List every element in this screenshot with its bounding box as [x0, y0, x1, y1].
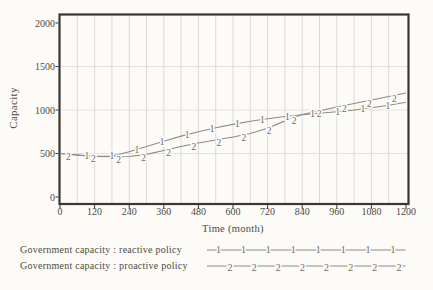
y-tick-label: 1500 [35, 61, 55, 72]
curve-marker-digit: 2 [392, 94, 397, 104]
legend-marker-digit: 2 [300, 262, 305, 273]
legend-marker-digit: 2 [276, 262, 281, 273]
curve-marker-digit: 1 [210, 124, 215, 134]
curve-marker-digit: 1 [185, 130, 190, 140]
y-tick-label: 0 [50, 192, 55, 203]
curve-marker-digit: 2 [292, 116, 297, 126]
x-tick-label: 480 [191, 206, 206, 217]
curve-marker-digit: 2 [242, 133, 247, 143]
legend-marker-digit: 2 [324, 262, 329, 273]
curve-marker-digit: 2 [66, 152, 71, 162]
x-tick-label: 1200 [396, 206, 416, 217]
x-tick-label: 960 [329, 206, 344, 217]
legend-marker-digit: 1 [266, 244, 271, 255]
curve-marker-digit: 2 [216, 138, 221, 148]
legend-marker-digit: 2 [348, 262, 353, 273]
legend-marker-digit: 2 [252, 262, 257, 273]
curve-marker-digit: 2 [141, 153, 146, 163]
y-tick-label: 2000 [35, 18, 55, 29]
curve-marker-digit: 1 [110, 151, 115, 161]
y-axis-title: Capacity [7, 87, 19, 129]
curve-marker-digit: 1 [285, 112, 290, 122]
legend-marker-digit: 2 [397, 262, 402, 273]
curve-marker-digit: 2 [191, 142, 196, 152]
legend-marker-digit: 1 [366, 244, 371, 255]
curve-marker-digit: 2 [317, 109, 322, 119]
curve-marker-digit: 1 [160, 137, 165, 147]
x-tick-label: 600 [226, 206, 241, 217]
x-tick-label: 120 [87, 206, 102, 217]
curve-marker-digit: 2 [342, 104, 347, 114]
legend-label-proactive: Government capacity : proactive policy [20, 260, 188, 271]
x-tick-label: 360 [156, 206, 171, 217]
chart-figure: 0120240360480600720840960108012000500100… [0, 0, 433, 290]
legend-marker-digit: 1 [291, 244, 296, 255]
curve-marker-digit: 1 [385, 101, 390, 111]
y-tick-label: 500 [40, 148, 55, 159]
x-tick-label: 1080 [361, 206, 381, 217]
curve-marker-digit: 2 [91, 154, 96, 164]
legend-marker-digit: 1 [341, 244, 346, 255]
curve-marker-digit: 2 [166, 148, 171, 158]
x-tick-label: 840 [295, 206, 310, 217]
curve-marker-digit: 1 [360, 104, 365, 114]
curve-marker-digit: 2 [267, 126, 272, 136]
legend-marker-digit: 1 [316, 244, 321, 255]
x-tick-label: 720 [260, 206, 275, 217]
legend-marker-digit: 1 [216, 244, 221, 255]
y-tick-label: 1000 [35, 105, 55, 116]
curve-marker-digit: 2 [116, 155, 121, 165]
curve-marker-digit: 1 [235, 119, 240, 129]
legend-marker-digit: 2 [372, 262, 377, 273]
x-tick-label: 0 [58, 206, 63, 217]
legend-marker-digit: 1 [241, 244, 246, 255]
curve-marker-digit: 1 [84, 151, 89, 161]
curve-marker-digit: 1 [135, 145, 140, 155]
curve-marker-digit: 1 [335, 107, 340, 117]
curve-marker-digit: 1 [260, 115, 265, 125]
legend-marker-digit: 1 [391, 244, 396, 255]
x-axis-title: Time (month) [202, 223, 264, 234]
curve-marker-digit: 1 [310, 109, 315, 119]
curve-marker-digit: 2 [367, 99, 372, 109]
x-tick-label: 240 [122, 206, 137, 217]
legend-label-reactive: Government capacity : reactive policy [20, 244, 182, 255]
legend-marker-digit: 2 [228, 262, 233, 273]
